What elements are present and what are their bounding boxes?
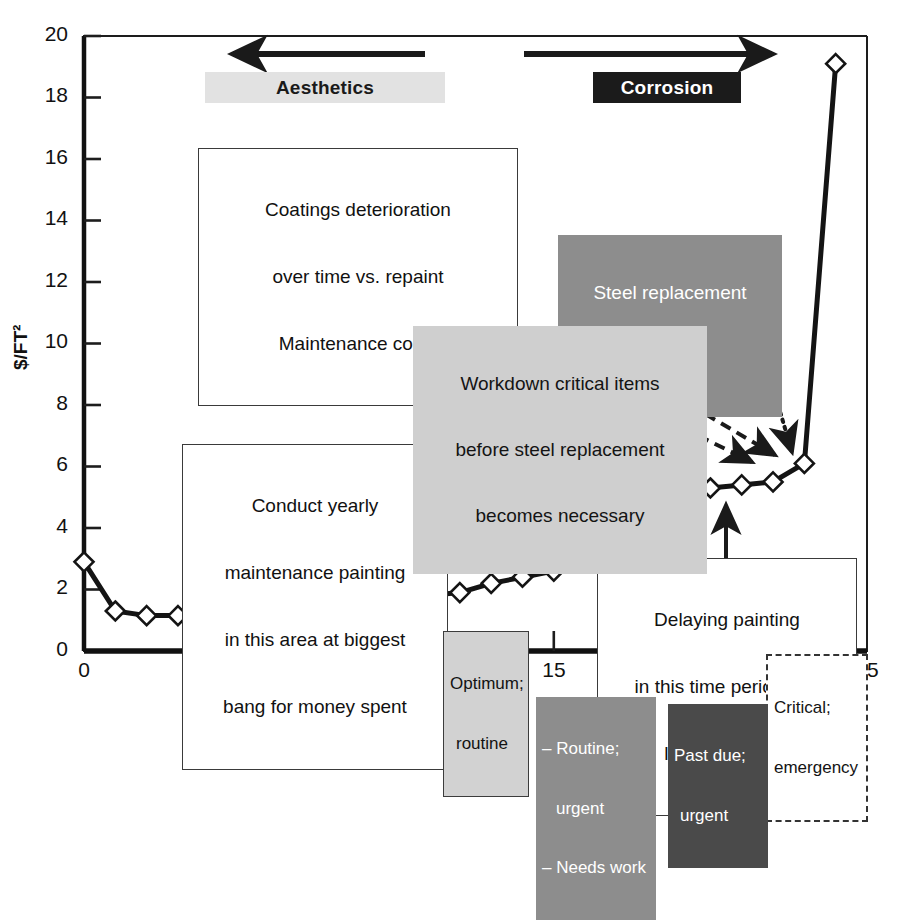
y-tick-12: 12 <box>22 268 68 292</box>
data-point-marker <box>137 606 156 625</box>
data-point-marker <box>826 54 845 73</box>
data-point-marker <box>450 583 469 602</box>
critical-emergency-marker: Critical; emergency <box>766 654 868 822</box>
x-tick-15: 15 <box>531 658 577 682</box>
legend-past-due: Past due; urgent <box>668 704 768 868</box>
conduct-line-4: bang for money spent <box>190 696 440 718</box>
aesthetics-banner: Aesthetics <box>205 72 445 103</box>
y-axis-title: $/FT² <box>10 325 31 370</box>
steel-line-1: Steel replacement <box>564 282 776 304</box>
optimum-routine-marker: Optimum; routine <box>443 631 529 797</box>
workdown-callout: Workdown critical items before steel rep… <box>413 326 707 574</box>
conduct-line-3: in this area at biggest <box>190 629 440 651</box>
coatings-line-2: over time vs. repaint <box>206 266 510 288</box>
legend-routine-urgent: – Routine; urgent – Needs work <box>536 697 656 920</box>
y-tick-16: 16 <box>22 145 68 169</box>
workdown-line-2: before steel replacement <box>419 439 701 461</box>
legend-pastdue-line-2: urgent <box>674 806 762 826</box>
y-tick-20: 20 <box>22 22 68 46</box>
y-tick-2: 2 <box>22 575 68 599</box>
legend-pastdue-line-1: Past due; <box>674 746 762 766</box>
y-tick-0: 0 <box>22 637 68 661</box>
delaying-line-1: Delaying painting <box>605 609 849 631</box>
y-tick-18: 18 <box>22 83 68 107</box>
conduct-yearly-callout: Conduct yearly maintenance painting in t… <box>182 444 448 770</box>
x-tick-0: 0 <box>61 658 107 682</box>
data-point-marker <box>482 574 501 593</box>
conduct-line-2: maintenance painting <box>190 562 440 584</box>
critical-line-1: Critical; <box>774 698 860 718</box>
workdown-line-3: becomes necessary <box>419 505 701 527</box>
workdown-line-1: Workdown critical items <box>419 373 701 395</box>
corrosion-banner: Corrosion <box>593 72 741 103</box>
legend-routine-line-2: urgent <box>542 799 650 819</box>
optimum-line-1: Optimum; <box>450 674 522 694</box>
y-tick-14: 14 <box>22 206 68 230</box>
y-tick-8: 8 <box>22 391 68 415</box>
optimum-line-2: routine <box>450 734 522 754</box>
y-tick-4: 4 <box>22 514 68 538</box>
y-axis-ticks <box>84 36 101 590</box>
critical-line-2: emergency <box>774 758 860 778</box>
legend-routine-line-1: – Routine; <box>542 739 650 759</box>
conduct-line-1: Conduct yearly <box>190 495 440 517</box>
coatings-line-1: Coatings deterioration <box>206 199 510 221</box>
data-point-marker <box>732 475 751 494</box>
y-tick-6: 6 <box>22 452 68 476</box>
legend-routine-line-3: – Needs work <box>542 858 650 878</box>
